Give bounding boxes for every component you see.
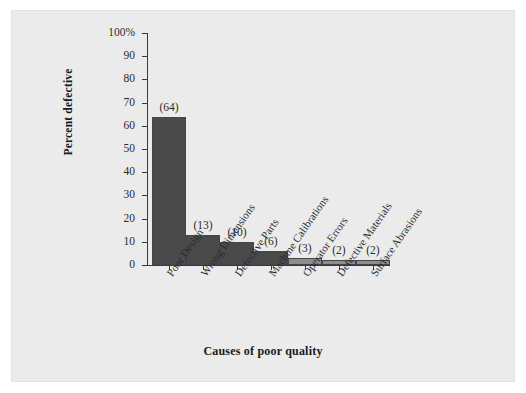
y-axis-tick-label: 40 (124, 166, 136, 178)
y-axis-tick (142, 56, 147, 57)
figure-panel: 0102030405060708090100% Percent defectiv… (11, 10, 515, 382)
x-axis-title: Causes of poor quality (11, 344, 515, 359)
y-axis-tick-label: 80 (124, 73, 136, 85)
y-axis-tick-label: 70 (124, 97, 136, 109)
plot-area: 0102030405060708090100% Percent defectiv… (11, 10, 515, 382)
y-axis-tick (142, 172, 147, 173)
y-axis-tick (142, 219, 147, 220)
chart-page: 0102030405060708090100% Percent defectiv… (0, 0, 526, 393)
y-axis-line (147, 33, 148, 266)
bar (152, 117, 186, 265)
y-axis-title: Percent defective (62, 52, 74, 172)
y-axis-tick (142, 195, 147, 196)
y-axis-tick (142, 149, 147, 150)
bar-value-label: (64) (143, 102, 195, 114)
y-axis-tick (142, 242, 147, 243)
y-axis-tick-label: 60 (124, 120, 136, 132)
y-axis-tick (142, 79, 147, 80)
y-axis-tick-label: 90 (124, 50, 136, 62)
y-axis-tick-label: 30 (124, 189, 136, 201)
y-axis-tick-label: 10 (124, 236, 136, 248)
y-axis-tick (142, 265, 147, 266)
y-axis-tick (142, 33, 147, 34)
y-axis-tick-label: 100% (108, 27, 135, 39)
y-axis-tick-label: 0 (129, 259, 135, 271)
y-axis-tick-label: 20 (124, 213, 136, 225)
y-axis-tick (142, 126, 147, 127)
y-axis-tick-label: 50 (124, 143, 136, 155)
